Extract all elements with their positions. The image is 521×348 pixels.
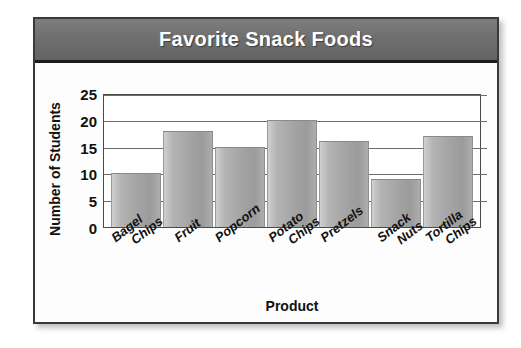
y-tick-label: 25 <box>65 87 97 102</box>
plot-area <box>103 94 481 228</box>
axis-tick-mark <box>480 95 487 96</box>
x-tick-slot: Popcorn <box>214 232 266 302</box>
x-tick-slot: TortillaChips <box>423 232 475 302</box>
bar-series <box>104 95 480 227</box>
bar <box>163 131 213 227</box>
y-tick-label: 10 <box>65 167 97 182</box>
chart-body: Number of Students 0510152025 BagelChips… <box>35 66 497 322</box>
x-tick-slot: Fruit <box>161 232 213 302</box>
x-tick-slot: BagelChips <box>109 232 161 302</box>
y-tick-label: 0 <box>65 221 97 236</box>
y-tick-label: 20 <box>65 113 97 128</box>
axis-tick-mark <box>480 201 487 202</box>
y-axis-title: Number of Students <box>47 94 63 244</box>
chart-title-banner: Favorite Snack Foods <box>35 19 497 63</box>
x-tick-slot: PotatoChips <box>266 232 318 302</box>
page-title: Favorite Snack Foods <box>159 28 373 51</box>
x-axis-title: Product <box>103 298 481 314</box>
chart-card: Favorite Snack Foods Number of Students … <box>33 17 499 324</box>
x-axis-tick-labels: BagelChipsFruitPopcornPotatoChipsPretzel… <box>103 232 481 302</box>
y-tick-label: 5 <box>65 194 97 209</box>
axis-tick-mark <box>480 174 487 175</box>
y-tick-label: 15 <box>65 140 97 155</box>
x-tick-slot: SnackNuts <box>370 232 422 302</box>
y-axis-tick-labels: 0510152025 <box>65 94 97 228</box>
axis-tick-mark <box>480 121 487 122</box>
x-tick-slot: Pretzels <box>318 232 370 302</box>
axis-tick-mark <box>480 148 487 149</box>
